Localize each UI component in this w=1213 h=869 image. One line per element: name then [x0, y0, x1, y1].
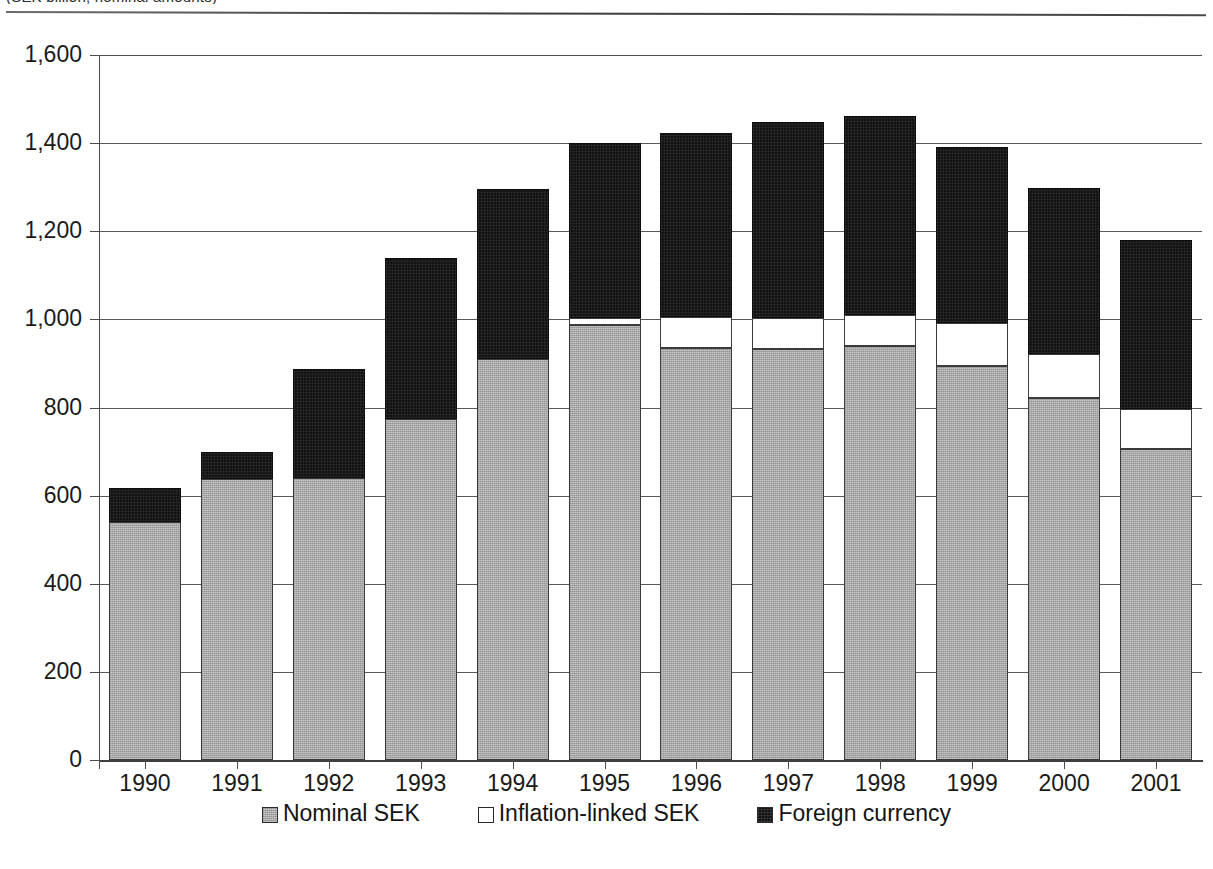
legend-item[interactable]: Foreign currency [757, 800, 951, 827]
bar-segment-foreign[interactable] [1120, 240, 1192, 409]
x-axis-tick-label: 2000 [1019, 770, 1109, 797]
black-swatch [757, 807, 773, 823]
bar-segment-foreign[interactable] [660, 133, 732, 317]
bar-segment-foreign[interactable] [569, 143, 641, 318]
bar-segment-nominal[interactable] [1028, 398, 1100, 760]
y-axis-tick [90, 143, 100, 144]
bar-segment-linked[interactable] [752, 318, 824, 350]
x-axis-tick [880, 760, 881, 769]
y-axis-tick-label: 1,400 [0, 129, 82, 156]
x-axis-tick [972, 760, 973, 769]
x-axis-tick [421, 760, 422, 769]
bar-segment-foreign[interactable] [1028, 188, 1100, 354]
legend-item[interactable]: Inflation-linked SEK [478, 800, 700, 827]
bar-segment-foreign[interactable] [385, 258, 457, 419]
x-axis-line [99, 760, 1203, 762]
y-axis-tick [90, 672, 100, 673]
x-axis-tick-label: 1998 [835, 770, 925, 797]
bar-segment-linked[interactable] [569, 318, 641, 325]
y-axis-tick [90, 319, 100, 320]
x-axis-tick-label: 1995 [560, 770, 650, 797]
x-axis-tick-label: 1994 [468, 770, 558, 797]
x-axis-tick-label: 1990 [100, 770, 190, 797]
x-axis-tick-label: 2001 [1111, 770, 1201, 797]
bar-segment-foreign[interactable] [477, 189, 549, 359]
bar-segment-nominal[interactable] [569, 325, 641, 760]
bar-segment-foreign[interactable] [936, 147, 1008, 323]
x-axis-tick-label: 1997 [743, 770, 833, 797]
x-axis-tick [145, 760, 146, 769]
bar-segment-foreign[interactable] [201, 452, 273, 479]
chart-legend: Nominal SEKInflation-linked SEKForeign c… [0, 800, 1213, 827]
x-axis-tick-label: 1996 [651, 770, 741, 797]
gray-swatch [262, 807, 278, 823]
y-axis-tick-label: 600 [0, 482, 82, 509]
bar-segment-foreign[interactable] [109, 488, 181, 522]
x-axis-tick-label: 1999 [927, 770, 1017, 797]
white-swatch [478, 807, 494, 823]
legend-item-label: Foreign currency [778, 800, 951, 827]
x-axis-tick [788, 760, 789, 769]
bar-segment-nominal[interactable] [660, 348, 732, 760]
x-axis-tick [1156, 760, 1157, 769]
x-axis-tick-label: 1991 [192, 770, 282, 797]
x-axis-tick [237, 760, 238, 769]
bar-segment-nominal[interactable] [385, 419, 457, 760]
bar-segment-foreign[interactable] [293, 369, 365, 479]
bar-segment-foreign[interactable] [752, 122, 824, 318]
y-axis-tick-label: 1,000 [0, 305, 82, 332]
page-bottom-edge [0, 841, 1213, 869]
bar-segment-nominal[interactable] [936, 366, 1008, 760]
bar-segment-nominal[interactable] [109, 522, 181, 760]
legend-item[interactable]: Nominal SEK [262, 800, 420, 827]
bar-segment-nominal[interactable] [844, 346, 916, 760]
y-axis-tick-label: 1,200 [0, 217, 82, 244]
y-axis-tick [90, 231, 100, 232]
bar-segment-nominal[interactable] [201, 479, 273, 760]
bar-segment-nominal[interactable] [752, 349, 824, 760]
legend-item-label: Inflation-linked SEK [499, 800, 700, 827]
x-axis-tick [513, 760, 514, 769]
bar-segment-nominal[interactable] [1120, 449, 1192, 760]
gridline [99, 55, 1202, 56]
bar-segment-linked[interactable] [660, 317, 732, 348]
y-axis-tick [90, 408, 100, 409]
y-axis-tick [90, 496, 100, 497]
y-axis-tick-label: 1,600 [0, 41, 82, 68]
y-axis-tick-label: 0 [0, 746, 82, 773]
y-axis-tick-label: 200 [0, 658, 82, 685]
x-axis-tick [696, 760, 697, 769]
y-axis-tick-label: 800 [0, 394, 82, 421]
x-axis-tick-label: 1992 [284, 770, 374, 797]
bar-segment-nominal[interactable] [477, 359, 549, 760]
x-axis-origin-tick [99, 760, 100, 769]
bar-segment-linked[interactable] [1028, 354, 1100, 398]
bar-segment-linked[interactable] [844, 315, 916, 346]
gridline [99, 143, 1202, 144]
x-axis-tick-label: 1993 [376, 770, 466, 797]
y-axis-tick [90, 55, 100, 56]
bar-segment-nominal[interactable] [293, 478, 365, 760]
stacked-bar-chart: 02004006008001,0001,2001,4001,600 199019… [0, 0, 1213, 869]
bar-segment-linked[interactable] [936, 323, 1008, 366]
plot-area [99, 55, 1202, 760]
legend-item-label: Nominal SEK [283, 800, 420, 827]
y-axis-tick-label: 400 [0, 570, 82, 597]
bar-segment-linked[interactable] [1120, 409, 1192, 450]
x-axis-tick [605, 760, 606, 769]
figure-page: (SEK billion, nominal amounts) 020040060… [0, 0, 1213, 869]
y-axis-tick [90, 584, 100, 585]
x-axis-tick [1064, 760, 1065, 769]
x-axis-tick [329, 760, 330, 769]
bar-segment-foreign[interactable] [844, 116, 916, 315]
